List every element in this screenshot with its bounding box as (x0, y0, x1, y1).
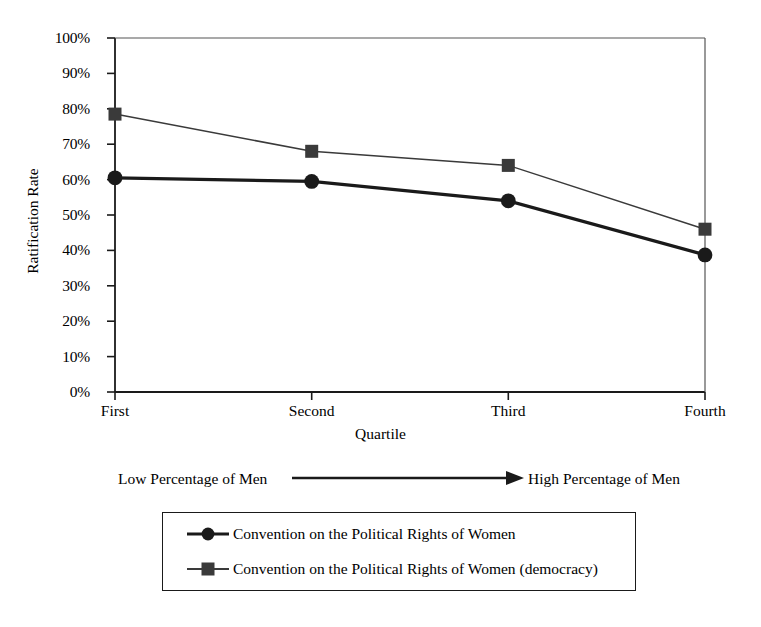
x-axis-title: Quartile (0, 425, 761, 443)
y-tick-label: 20% (28, 313, 90, 329)
data-point-marker (502, 159, 515, 172)
gradient-arrow-icon (292, 471, 524, 485)
data-point-marker (305, 145, 318, 158)
annotation-high-percentage-label: High Percentage of Men (528, 470, 680, 488)
y-tick-label: 10% (28, 349, 90, 365)
y-tick-label: 80% (28, 101, 90, 117)
x-tick-label: Second (242, 403, 382, 419)
data-point-marker (109, 108, 122, 121)
x-tick-label: Fourth (635, 403, 761, 419)
chart-figure: 100% 90% 80% 70% 60% 50% 40% 30% 20% 10%… (0, 0, 761, 627)
legend-item: Convention on the Political Rights of Wo… (185, 558, 598, 580)
y-tick-label: 0% (28, 384, 90, 400)
x-tick-marks (115, 392, 705, 400)
x-tick-label: Third (438, 403, 578, 419)
circle-marker-icon (185, 524, 231, 544)
y-tick-label: 100% (28, 30, 90, 46)
legend-label: Convention on the Political Rights of Wo… (233, 561, 598, 577)
plot-axes (115, 38, 705, 392)
y-tick-label: 90% (28, 65, 90, 81)
legend-item: Convention on the Political Rights of Wo… (185, 523, 516, 545)
data-point-marker (699, 223, 712, 236)
legend-label: Convention on the Political Rights of Wo… (233, 526, 516, 542)
data-point-marker (501, 193, 516, 208)
x-tick-label: First (45, 403, 185, 419)
chart-legend: Convention on the Political Rights of Wo… (162, 512, 636, 591)
data-point-marker (304, 174, 319, 189)
y-tick-marks (107, 38, 115, 392)
series-democracy (109, 108, 712, 236)
y-axis-title: Ratification Rate (24, 141, 42, 301)
square-marker-icon (185, 559, 231, 579)
series-convention (108, 170, 713, 262)
data-point-marker (108, 170, 123, 185)
annotation-low-percentage-label: Low Percentage of Men (118, 470, 267, 488)
data-point-marker (698, 248, 713, 263)
